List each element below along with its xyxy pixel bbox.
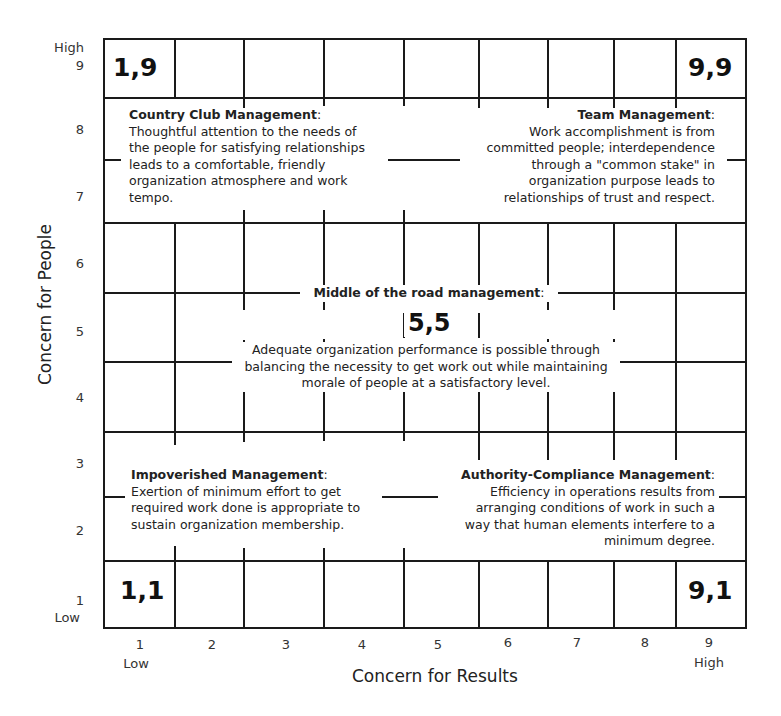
grid-tick-h bbox=[103, 496, 125, 498]
middle-text: morale of people at a satisfactory level… bbox=[232, 375, 620, 392]
grid-line-v bbox=[675, 431, 677, 460]
grid-tick-h bbox=[382, 496, 438, 498]
grid-line-v bbox=[323, 97, 325, 106]
country-club-text: tempo. bbox=[129, 190, 391, 207]
grid-line-h bbox=[103, 560, 747, 562]
grid-line-v bbox=[613, 431, 615, 460]
grid-line-v bbox=[403, 548, 405, 629]
grid-line-v bbox=[323, 210, 325, 294]
middle-of-road-text-box: Adequate organization performance is pos… bbox=[232, 342, 620, 392]
grid-border-left bbox=[103, 38, 105, 629]
x-tick-9: 9 bbox=[689, 635, 729, 650]
y-tick-8: 8 bbox=[44, 122, 84, 137]
grid-line-v bbox=[478, 222, 480, 294]
grid-line-v bbox=[243, 548, 245, 629]
team-management-box: Team Management: Work accomplishment is … bbox=[460, 107, 715, 206]
country-club-title: Country Club Management bbox=[129, 107, 317, 122]
grid-line-v bbox=[675, 560, 677, 629]
grid-line-v bbox=[323, 38, 325, 99]
grid-tick-h bbox=[103, 159, 121, 161]
middle-of-road-title-box: Middle of the road management: bbox=[300, 285, 558, 302]
grid-tick-h bbox=[388, 159, 460, 161]
grid-line-v bbox=[478, 431, 480, 460]
center-label-5-5: 5,5 bbox=[404, 309, 455, 337]
grid-border-top bbox=[103, 38, 747, 40]
grid-line-h bbox=[103, 97, 747, 99]
authority-text: Efficiency in operations results from bbox=[440, 484, 715, 501]
grid-line-v bbox=[174, 38, 176, 99]
y-tick-7: 7 bbox=[44, 189, 84, 204]
grid-line-v bbox=[174, 560, 176, 629]
y-axis-low-label: Low bbox=[40, 610, 80, 625]
grid-line-v bbox=[675, 38, 677, 99]
grid-line-v bbox=[613, 292, 615, 310]
y-tick-9: 9 bbox=[44, 58, 84, 73]
country-club-management-box: Country Club Management: Thoughtful atte… bbox=[129, 107, 391, 206]
x-tick-5: 5 bbox=[418, 637, 458, 652]
impoverished-text: Exertion of minimum effort to get bbox=[131, 484, 381, 501]
middle-title: Middle of the road management bbox=[313, 285, 540, 300]
y-axis-title: Concern for People bbox=[35, 225, 55, 385]
grid-line-v bbox=[243, 292, 245, 310]
grid-line-v bbox=[613, 222, 615, 294]
x-tick-2: 2 bbox=[192, 637, 232, 652]
impoverished-title: Impoverished Management bbox=[131, 467, 323, 482]
grid-border-bottom bbox=[103, 627, 747, 629]
country-club-text: the people for satisfying relationships bbox=[129, 140, 391, 157]
corner-label-1-1: 1,1 bbox=[120, 576, 164, 605]
x-tick-1: 1 bbox=[120, 637, 160, 652]
y-tick-3: 3 bbox=[44, 456, 84, 471]
grid-line-v bbox=[547, 431, 549, 460]
middle-text: Adequate organization performance is pos… bbox=[232, 342, 620, 359]
country-club-text: leads to a comfortable, friendly bbox=[129, 157, 391, 174]
grid-line-v bbox=[478, 38, 480, 99]
grid-line-v bbox=[613, 560, 615, 629]
grid-line-v bbox=[174, 222, 176, 431]
grid-line-v bbox=[547, 560, 549, 629]
grid-line-v bbox=[403, 38, 405, 99]
x-axis-title: Concern for Results bbox=[352, 666, 518, 686]
team-title: Team Management bbox=[578, 107, 711, 122]
team-text: committed people; interdependence bbox=[460, 140, 715, 157]
impoverished-management-box: Impoverished Management: Exertion of min… bbox=[131, 467, 381, 533]
x-tick-3: 3 bbox=[266, 637, 306, 652]
authority-text: minimum degree. bbox=[440, 533, 715, 550]
team-text: organization purpose leads to bbox=[460, 173, 715, 190]
x-tick-7: 7 bbox=[557, 635, 597, 650]
x-tick-8: 8 bbox=[625, 635, 665, 650]
grid-line-h bbox=[103, 222, 747, 224]
country-club-text: Thoughtful attention to the needs of bbox=[129, 124, 391, 141]
impoverished-text: required work done is appropriate to bbox=[131, 500, 381, 517]
grid-line-h bbox=[103, 431, 747, 433]
grid-line-v bbox=[547, 38, 549, 99]
corner-label-1-9: 1,9 bbox=[113, 53, 157, 82]
grid-line-v bbox=[174, 546, 176, 560]
corner-label-9-9: 9,9 bbox=[688, 53, 732, 82]
grid-line-v bbox=[403, 431, 405, 441]
grid-line-v bbox=[243, 38, 245, 99]
y-tick-2: 2 bbox=[44, 523, 84, 538]
authority-title: Authority-Compliance Management bbox=[461, 467, 711, 482]
grid-tick-h bbox=[727, 159, 747, 161]
grid-line-v bbox=[478, 313, 480, 338]
grid-tick-h bbox=[719, 496, 747, 498]
y-axis-high-label: High bbox=[44, 40, 84, 55]
grid-line-v bbox=[547, 222, 549, 294]
grid-line-v bbox=[243, 431, 245, 442]
grid-line-v bbox=[243, 210, 245, 294]
grid-border-right bbox=[745, 38, 747, 629]
grid-line-v bbox=[403, 97, 405, 106]
authority-text: arranging conditions of work in such a bbox=[440, 500, 715, 517]
impoverished-text: sustain organization membership. bbox=[131, 517, 381, 534]
x-tick-6: 6 bbox=[488, 635, 528, 650]
authority-text: way that human elements interfere to a bbox=[440, 517, 715, 534]
corner-label-9-1: 9,1 bbox=[688, 576, 732, 605]
grid-line-v bbox=[675, 222, 677, 431]
y-tick-1: 1 bbox=[44, 593, 84, 608]
grid-line-v bbox=[174, 431, 176, 445]
middle-text: balancing the necessity to get work out … bbox=[232, 359, 620, 376]
team-text: through a "common stake" in bbox=[460, 157, 715, 174]
grid-line-v bbox=[323, 548, 325, 629]
team-text: relationships of trust and respect. bbox=[460, 190, 715, 207]
country-club-text: organization atmosphere and work bbox=[129, 173, 391, 190]
